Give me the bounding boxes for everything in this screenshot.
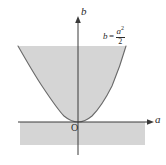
a-axis-arrowhead	[147, 119, 154, 125]
a-axis-label: a	[155, 114, 161, 125]
curve-equation-lhs: b	[103, 32, 108, 41]
curve-equation-label: b = a2 2	[103, 27, 125, 46]
shaded-region-below-axis	[20, 122, 145, 145]
curve-equation-denominator: 2	[117, 38, 123, 47]
b-axis-arrowhead	[75, 16, 81, 23]
b-axis-label: b	[81, 6, 87, 17]
curve-equation-equals: =	[109, 32, 114, 41]
shaded-region-inside-parabola	[18, 46, 126, 122]
curve-equation-fraction: a2 2	[116, 27, 126, 46]
plot-canvas	[0, 0, 166, 165]
curve-equation-numerator-exponent: 2	[121, 25, 124, 31]
parabola-figure: b a O b = a2 2	[0, 0, 166, 165]
curve-equation-numerator: a2	[116, 27, 126, 37]
origin-label: O	[71, 123, 78, 133]
